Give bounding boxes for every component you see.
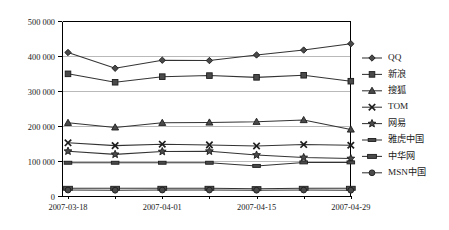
- legend-label: 雅虎中国: [388, 133, 424, 144]
- data-point-marker: [207, 187, 213, 193]
- data-series: [64, 41, 356, 194]
- data-point-marker: [64, 161, 72, 164]
- series-2: [65, 71, 353, 85]
- data-point-marker: [253, 52, 259, 58]
- data-point-marker: [301, 72, 307, 78]
- data-point-marker: [301, 187, 307, 193]
- data-point-marker: [300, 161, 308, 164]
- legend-label: 搜狐: [388, 84, 406, 95]
- legend-label: 新浪: [388, 68, 406, 79]
- x-axis-labels: 2007-03-182007-04-012007-04-152007-04-29: [48, 203, 370, 212]
- gridlines: [62, 22, 350, 162]
- x-tick-label: 2007-04-01: [143, 203, 182, 212]
- legend-label: MSN中国: [388, 166, 426, 177]
- data-point-marker: [207, 73, 213, 79]
- legend-item-6[interactable]: 雅虎中国: [362, 133, 424, 144]
- y-tick-label: 200 000: [28, 123, 55, 132]
- data-point-marker: [158, 147, 166, 154]
- legend-label: QQ: [388, 52, 402, 62]
- series-3: [65, 116, 355, 132]
- data-point-marker: [111, 150, 119, 157]
- data-point-marker: [159, 57, 165, 63]
- data-point-marker: [368, 120, 376, 127]
- x-tick-label: 2007-04-29: [331, 203, 370, 212]
- line-chart: 0100 000200 000300 000400 000500 000 200…: [0, 0, 449, 230]
- y-tick-label: 100 000: [28, 158, 55, 167]
- data-point-marker: [159, 74, 165, 80]
- data-point-marker: [348, 187, 354, 193]
- data-point-marker: [158, 161, 166, 164]
- y-tick-label: 300 000: [28, 88, 55, 97]
- y-tick-label: 400 000: [28, 53, 55, 62]
- data-point-marker: [206, 57, 212, 63]
- data-point-marker: [253, 164, 261, 167]
- x-tick-label: 2007-04-15: [237, 203, 276, 212]
- data-point-marker: [300, 116, 307, 122]
- data-point-marker: [112, 79, 118, 85]
- data-point-marker: [65, 71, 71, 77]
- y-axis-labels: 0100 000200 000300 000400 000500 000: [28, 18, 55, 202]
- data-point-marker: [253, 151, 261, 158]
- data-point-marker: [348, 41, 354, 47]
- data-point-marker: [369, 55, 375, 61]
- legend-label: 网易: [388, 118, 406, 128]
- legend-label: 中华网: [388, 150, 415, 161]
- data-point-marker: [254, 75, 260, 81]
- chart-canvas: 0100 000200 000300 000400 000500 000 200…: [0, 0, 449, 230]
- x-tick-label: 2007-03-18: [48, 203, 87, 212]
- data-point-marker: [206, 161, 214, 164]
- y-tick-label: 500 000: [28, 18, 55, 27]
- chart-legend: QQ新浪搜狐TOM网易雅虎中国中华网MSN中国: [362, 52, 426, 177]
- legend-item-4[interactable]: TOM: [362, 101, 408, 111]
- data-point-marker: [65, 49, 71, 55]
- data-point-marker: [112, 187, 118, 193]
- legend-item-5[interactable]: 网易: [362, 118, 406, 128]
- y-tick-label: 0: [51, 193, 55, 202]
- legend-item-2[interactable]: 新浪: [362, 68, 406, 79]
- data-point-marker: [65, 119, 72, 125]
- series-5: [64, 147, 355, 162]
- legend-label: TOM: [388, 101, 408, 111]
- data-point-marker: [254, 187, 260, 193]
- data-point-marker: [347, 161, 355, 164]
- data-point-marker: [368, 139, 376, 142]
- legend-item-3[interactable]: 搜狐: [362, 84, 406, 95]
- data-point-marker: [64, 147, 72, 154]
- legend-item-1[interactable]: QQ: [362, 52, 402, 62]
- data-point-marker: [65, 187, 71, 193]
- data-point-marker: [112, 65, 118, 71]
- legend-item-8[interactable]: MSN中国: [362, 166, 426, 177]
- axes: [58, 22, 352, 200]
- data-point-marker: [348, 78, 354, 84]
- data-point-marker: [300, 47, 306, 53]
- data-point-marker: [300, 153, 308, 160]
- data-point-marker: [369, 170, 375, 176]
- legend-item-7[interactable]: 中华网: [362, 150, 415, 161]
- data-point-marker: [368, 154, 377, 158]
- data-point-marker: [111, 161, 119, 164]
- data-point-marker: [159, 187, 165, 193]
- data-point-marker: [369, 72, 375, 78]
